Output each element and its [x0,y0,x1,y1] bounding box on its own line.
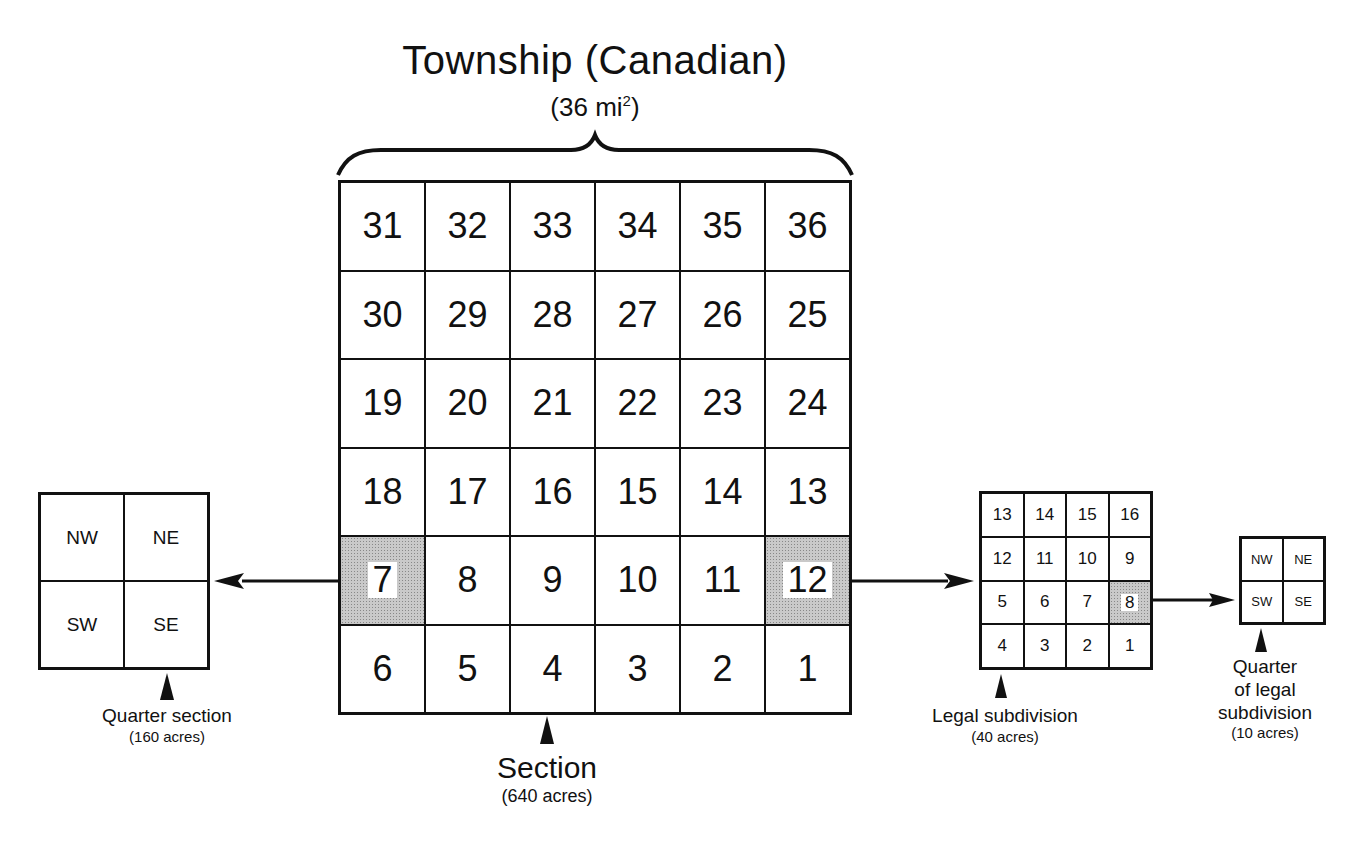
section-number: 12 [783,562,831,598]
quarter-lsd-area: (10 acres) [1190,724,1340,742]
section-cell: 29 [425,271,510,360]
section-label-area: (640 acres) [447,786,647,808]
lsd-cell: 14 [1024,493,1067,537]
section-cell-highlighted: 7 [340,536,425,625]
lsd-number: 16 [1120,505,1139,525]
section-number: 10 [617,559,657,601]
quarter-section-area: (160 acres) [57,728,277,746]
section-number: 36 [787,205,827,247]
quarter-lsd-label: Quarter of legal subdivision (10 acres) [1190,656,1340,742]
section-number: 15 [617,471,657,513]
section-number: 1 [797,648,817,690]
section-number: 35 [702,205,742,247]
quarter-label: SE [153,614,178,636]
quarter-lsd-title-line3: subdivision [1190,702,1340,725]
lsd-number: 12 [993,549,1012,569]
section-number: 32 [447,205,487,247]
section-cell: 9 [510,536,595,625]
legal-subdivision-area: (40 acres) [895,728,1115,746]
section-number: 8 [457,559,477,601]
arrow-left-icon [212,570,338,592]
lsd-number: 11 [1036,549,1054,569]
section-cell: 4 [510,625,595,714]
section-number: 34 [617,205,657,247]
lsd-number: 2 [1083,636,1092,656]
section-number: 28 [532,294,572,336]
quarter-lsd-grid: NW NE SW SE [1239,536,1326,625]
quarter-section-title: Quarter section [57,705,277,728]
arrow-right-icon [852,570,976,592]
subtitle-text: (36 mi [550,92,622,122]
section-number: 22 [617,382,657,424]
quarter-lsd-cell-se: SE [1283,581,1325,624]
lsd-number: 4 [998,636,1007,656]
diagram-subtitle: (36 mi2) [338,86,852,122]
lsd-cell: 9 [1109,537,1152,581]
section-cell: 30 [340,271,425,360]
section-cell: 19 [340,359,425,448]
lsd-number: 5 [998,592,1007,612]
section-cell: 33 [510,182,595,271]
lsd-cell: 4 [981,624,1024,668]
quarter-cell-sw: SW [40,581,124,668]
section-number: 14 [702,471,742,513]
section-cell: 14 [680,448,765,537]
section-cell: 3 [595,625,680,714]
lsd-number: 14 [1035,505,1054,525]
quarter-lsd-cell-ne: NE [1283,538,1325,581]
diagram-title: Township (Canadian) [338,38,852,82]
section-number: 20 [447,382,487,424]
lsd-number: 10 [1078,549,1097,569]
legal-subdivision-label: Legal subdivision (40 acres) [895,705,1115,746]
quarter-label: NW [1251,552,1273,567]
section-cell: 24 [765,359,850,448]
quarter-section-label: Quarter section (160 acres) [57,705,277,746]
section-cell: 27 [595,271,680,360]
lsd-cell: 16 [1109,493,1152,537]
section-cell: 8 [425,536,510,625]
section-number: 19 [362,382,402,424]
section-number: 5 [457,648,477,690]
section-number: 29 [447,294,487,336]
quarter-cell-ne: NE [124,494,208,581]
lsd-cell: 1 [1109,624,1152,668]
section-cell: 34 [595,182,680,271]
section-label: Section (640 acres) [447,750,647,808]
section-cell: 35 [680,182,765,271]
section-cell: 11 [680,536,765,625]
section-cell: 21 [510,359,595,448]
section-cell: 2 [680,625,765,714]
section-number: 33 [532,205,572,247]
lsd-cell: 13 [981,493,1024,537]
section-number: 24 [787,382,827,424]
section-number: 25 [787,294,827,336]
section-label-title: Section [447,750,647,786]
section-number: 27 [617,294,657,336]
section-number: 23 [702,382,742,424]
section-number: 3 [627,648,647,690]
township-grid: 31 32 33 34 35 36 30 29 28 27 26 25 19 2… [338,180,852,715]
quarter-cell-se: SE [124,581,208,668]
section-cell: 16 [510,448,595,537]
pointer-up-icon [160,673,174,700]
quarter-label: NE [1294,552,1312,567]
section-number: 9 [542,559,562,601]
section-number: 30 [362,294,402,336]
section-number: 31 [362,205,402,247]
section-cell: 28 [510,271,595,360]
section-cell: 1 [765,625,850,714]
section-cell: 23 [680,359,765,448]
section-number: 11 [704,559,741,601]
lsd-number: 13 [993,505,1012,525]
lsd-number: 1 [1125,636,1134,656]
arrow-right-icon [1153,592,1237,608]
lsd-number: 7 [1083,592,1092,612]
lsd-cell: 11 [1024,537,1067,581]
section-number: 7 [368,562,396,598]
section-cell: 26 [680,271,765,360]
quarter-label: NW [66,527,98,549]
quarter-lsd-title-line2: of legal [1190,679,1340,702]
section-cell: 32 [425,182,510,271]
lsd-cell: 5 [981,581,1024,625]
section-number: 26 [702,294,742,336]
